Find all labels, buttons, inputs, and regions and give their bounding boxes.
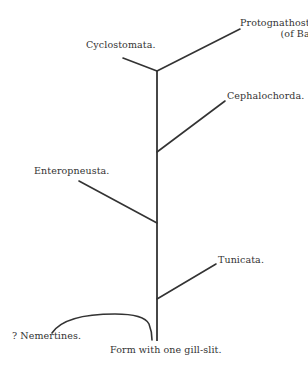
branch-protognathostomata <box>157 29 240 71</box>
label-cephalochorda: Cephalochorda. <box>227 90 304 101</box>
label-protognathostomata-name: Protognathostomata <box>240 17 308 28</box>
tree-lines <box>0 0 308 375</box>
branch-cyclostomata <box>123 58 157 71</box>
label-protognathostomata: Protognathostomata (of Balfour). <box>240 17 308 39</box>
branch-enteropneusta <box>79 181 157 223</box>
label-tunicata: Tunicata. <box>218 254 264 265</box>
label-cyclostomata: Cyclostomata. <box>86 39 156 50</box>
branch-cephalochorda <box>157 101 225 152</box>
label-nemertines: ? Nemertines. <box>12 330 81 341</box>
label-protognathostomata-sub: (of Balfour). <box>240 28 308 39</box>
label-enteropneusta: Enteropneusta. <box>34 165 109 176</box>
label-root: Form with one gill-slit. <box>110 344 222 355</box>
phylogenetic-diagram: Cyclostomata. Protognathostomata (of Bal… <box>0 0 308 375</box>
branch-tunicata <box>157 264 216 299</box>
